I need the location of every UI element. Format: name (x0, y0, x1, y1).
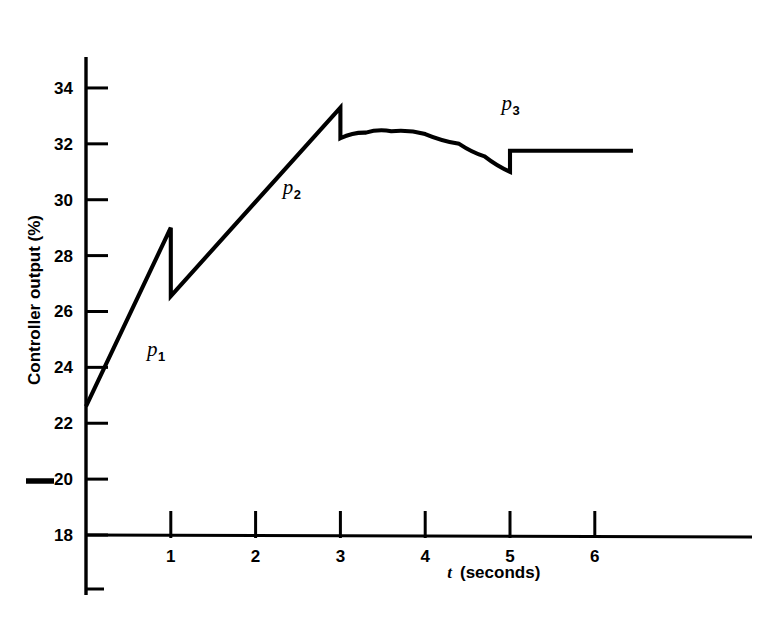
x-tick-label-1: 1 (166, 547, 175, 566)
x-tick-label-2: 2 (251, 547, 260, 566)
y-tick-label-24: 24 (54, 358, 73, 377)
y-tick-label-20: 20 (54, 470, 73, 489)
annotation-p2-subscript: 2 (294, 187, 301, 202)
y-tick-label-32: 32 (54, 135, 73, 154)
chart-figure: 182022242628303234 123456 p1p2p3 Control… (0, 0, 784, 626)
y-tick-label-34: 34 (54, 79, 73, 98)
annotation-p2: p2 (281, 175, 301, 202)
x-tick-label-4: 4 (420, 547, 430, 566)
y-tick-label-30: 30 (54, 191, 73, 210)
annotation-p1-base: p (145, 337, 158, 361)
x-axis-title: t (seconds) (447, 563, 540, 582)
series-annotations: p1p2p3 (145, 91, 520, 364)
annotation-p3-base: p (500, 91, 513, 115)
y-tick-label-22: 22 (54, 414, 73, 433)
y-tick-label-18: 18 (54, 526, 73, 545)
annotation-p3: p3 (500, 91, 520, 118)
y-axis-ticks (86, 88, 108, 535)
x-axis-title-symbol: t (447, 563, 453, 582)
y-axis-title: Controller output (%) (25, 215, 44, 385)
x-tick-label-6: 6 (590, 547, 599, 566)
x-axis-line (86, 535, 752, 537)
y-tick-label-26: 26 (54, 302, 73, 321)
annotation-p2-base: p (281, 175, 294, 199)
annotation-p3-subscript: 3 (513, 103, 520, 118)
annotation-p1-subscript: 1 (158, 349, 165, 364)
controller-output-chart: 182022242628303234 123456 p1p2p3 Control… (0, 0, 784, 626)
x-tick-label-3: 3 (336, 547, 345, 566)
annotation-p1: p1 (145, 337, 165, 364)
y-axis-tick-labels: 182022242628303234 (54, 79, 73, 545)
x-axis-title-unit: (seconds) (460, 563, 540, 582)
y-tick-label-28: 28 (54, 247, 73, 266)
controller-output-curve (86, 108, 633, 407)
